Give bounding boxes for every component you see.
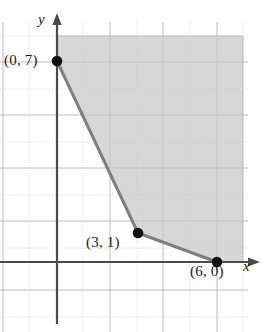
coordinate-plane	[0, 0, 264, 332]
shaded-feasible-region	[57, 36, 243, 262]
y-axis-arrow-icon	[52, 13, 61, 25]
point-label-0-7: (0, 7)	[4, 52, 38, 69]
point-label-6-0: (6, 0)	[190, 263, 224, 280]
y-axis-label: y	[38, 11, 45, 28]
vertex-marker-3-1	[133, 228, 144, 239]
point-label-3-1: (3, 1)	[86, 234, 120, 251]
graph-figure: (0, 7) (3, 1) (6, 0) y x	[0, 0, 264, 332]
vertex-marker-0-7	[52, 56, 63, 67]
x-axis-label: x	[243, 258, 250, 275]
